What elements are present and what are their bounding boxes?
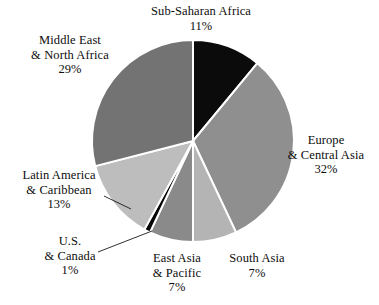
slice-label-text-2: & North Africa: [9, 48, 131, 63]
slice-label-middle-east-north-africa: Middle East & North Africa 29%: [9, 33, 131, 77]
slice-label-percent: 13%: [0, 197, 118, 212]
slice-label-text: South Asia: [211, 251, 303, 266]
slice-label-percent: 7%: [211, 266, 303, 281]
slice-label-percent: 7%: [133, 280, 221, 295]
slice-label-text: U.S.: [20, 234, 120, 249]
slice-label-text-2: & Central Asia: [276, 148, 376, 163]
slice-label-percent: 1%: [20, 263, 120, 278]
slice-label-text-2: & Caribbean: [0, 183, 118, 198]
slice-label-percent: 11%: [131, 19, 271, 34]
slice-label-text: Europe: [276, 133, 376, 148]
slice-label-us-canada: U.S. & Canada 1%: [20, 234, 120, 278]
slice-label-europe-central-asia: Europe & Central Asia 32%: [276, 133, 376, 177]
pie-chart-figure: Sub-Saharan Africa 11% Middle East & Nor…: [0, 0, 379, 305]
slice-label-latin-america-caribbean: Latin America & Caribbean 13%: [0, 168, 118, 212]
slice-label-text-2: & Canada: [20, 249, 120, 264]
slice-label-percent: 32%: [276, 162, 376, 177]
slice-label-text-2: & Pacific: [133, 266, 221, 281]
slice-label-text: Middle East: [9, 33, 131, 48]
slice-label-south-asia: South Asia 7%: [211, 251, 303, 280]
slice-label-east-asia-pacific: East Asia & Pacific 7%: [133, 251, 221, 295]
slice-label-text: Sub-Saharan Africa: [131, 4, 271, 19]
slice-label-percent: 29%: [9, 62, 131, 77]
slice-label-sub-saharan-africa: Sub-Saharan Africa 11%: [131, 4, 271, 33]
slice-label-text: Latin America: [0, 168, 118, 183]
slice-label-text: East Asia: [133, 251, 221, 266]
